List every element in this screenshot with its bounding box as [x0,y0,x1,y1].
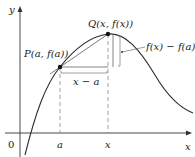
horizontal-span-label: x − a [73,76,99,87]
difference-quotient-diagram: y x 0 a x P(a, f(a)) Q(x, f(x)) x − a f(… [0,0,195,157]
x-axis-arrow-icon [186,131,192,136]
vertical-span-label: f(x) − f(a) [145,41,195,52]
point-P [58,65,62,69]
y-axis-label: y [8,4,15,15]
point-Q [106,32,110,36]
point-P-label: P(a, f(a)) [23,48,68,59]
tick-label-a: a [57,139,63,150]
point-Q-label: Q(x, f(x)) [88,18,133,29]
origin-label: 0 [8,139,14,150]
label-leader [122,47,145,52]
leader-dot [121,51,123,53]
horizontal-brace [61,71,107,73]
tick-label-x: x [105,139,111,150]
x-axis-label: x [185,141,191,152]
vertical-brace [118,36,120,66]
y-axis-arrow-icon [18,6,23,12]
